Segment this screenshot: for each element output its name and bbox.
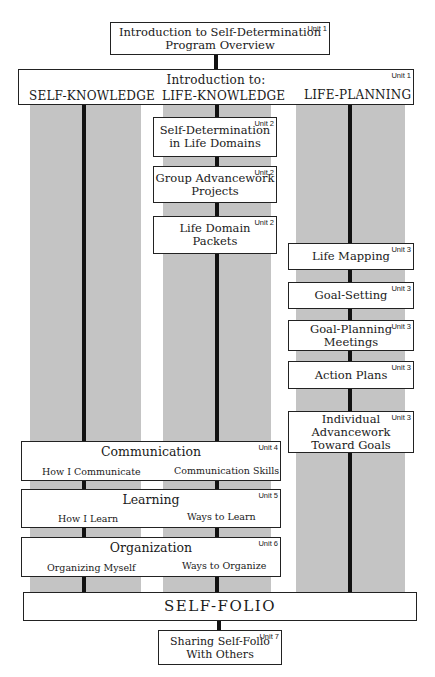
box-line1: Individual (322, 413, 380, 426)
action-plans-box: Unit 3 Action Plans (288, 361, 414, 389)
self-folio-title: SELF-FOLIO (164, 600, 276, 613)
intro-bar: Unit 1 Introduction to: SELF-KNOWLEDGE L… (18, 69, 414, 105)
goal-setting-box: Unit 3 Goal-Setting (288, 282, 414, 309)
life-domain-packets-box: Unit 2 Life Domain Packets (153, 216, 277, 254)
box-right-item: Ways to Organize (182, 560, 266, 571)
life-mapping-box: Unit 3 Life Mapping (288, 243, 414, 270)
unit-label: Unit 3 (391, 245, 411, 254)
box-line1: Action Plans (315, 369, 388, 382)
unit-label: Unit 3 (391, 363, 411, 372)
self-determination-life-domains-box: Unit 2 Self-Determination in Life Domain… (153, 117, 277, 157)
intro-overview-box: Unit 1 Introduction to Self-Determinatio… (110, 22, 330, 55)
box-line1: Sharing Self-Folio (170, 635, 270, 648)
intro-title: Introduction to: (19, 74, 413, 87)
organization-box: Unit 6 Organization Organizing Myself Wa… (21, 537, 281, 577)
box-line2: With Others (186, 648, 254, 661)
box-title: Learning (22, 494, 280, 505)
box-line2: Meetings (324, 336, 378, 349)
communication-box: Unit 4 Communication How I Communicate C… (21, 441, 281, 481)
self-folio-bar: SELF-FOLIO (23, 592, 417, 621)
unit-label: Unit 3 (391, 413, 411, 422)
box-line1: Life Mapping (312, 250, 390, 263)
box-title-line1: Introduction to Self-Determination (119, 26, 321, 39)
box-title: Organization (22, 542, 280, 553)
box-right-item: Ways to Learn (187, 511, 256, 522)
box-line2: Projects (191, 185, 239, 198)
unit-label: Unit 2 (254, 168, 274, 177)
individual-advancework-box: Unit 3 Individual Advancework Toward Goa… (288, 411, 414, 453)
box-title: Communication (22, 446, 280, 457)
goal-planning-meetings-box: Unit 3 Goal-Planning Meetings (288, 320, 414, 351)
sharing-self-folio-box: Unit 7 Sharing Self-Folio With Others (158, 630, 282, 665)
box-line2: Packets (193, 235, 238, 248)
box-right-item: Communication Skills (174, 465, 279, 476)
header-life-knowledge: LIFE-KNOWLEDGE (162, 90, 285, 103)
unit-label: Unit 3 (391, 322, 411, 331)
box-left-item: How I Learn (58, 513, 118, 524)
box-line2: in Life Domains (169, 137, 261, 150)
box-line1: Goal-Planning (310, 323, 392, 336)
group-advancework-box: Unit 2 Group Advancework Projects (153, 166, 277, 203)
box-title-line2: Program Overview (165, 39, 275, 52)
unit-label: Unit 7 (259, 632, 279, 641)
box-left-item: Organizing Myself (47, 562, 136, 573)
unit-label: Unit 1 (307, 24, 327, 33)
unit-label: Unit 2 (254, 218, 274, 227)
learning-box: Unit 5 Learning How I Learn Ways to Lear… (21, 489, 281, 528)
box-line3: Toward Goals (311, 439, 390, 452)
box-line2: Advancework (312, 426, 391, 439)
unit-label: Unit 2 (254, 119, 274, 128)
box-left-item: How I Communicate (42, 466, 141, 477)
header-life-planning: LIFE-PLANNING (304, 89, 411, 102)
unit-label: Unit 3 (391, 284, 411, 293)
header-self-knowledge: SELF-KNOWLEDGE (29, 90, 155, 103)
box-line1: Goal-Setting (315, 289, 388, 302)
